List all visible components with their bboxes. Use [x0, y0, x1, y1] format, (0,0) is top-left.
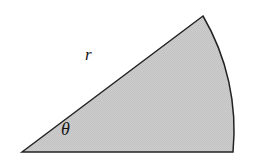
circular-sector-figure: r θ — [0, 0, 261, 165]
sector-shape — [0, 0, 261, 165]
angle-label: θ — [61, 120, 70, 138]
sector-path — [22, 16, 234, 152]
radius-label: r — [85, 46, 92, 63]
